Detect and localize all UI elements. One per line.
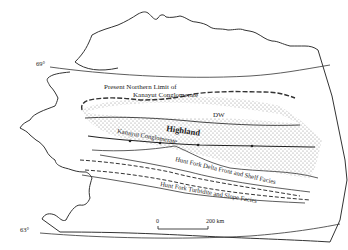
scale-bar: 0 200 km <box>156 218 225 229</box>
northern-limit-label-line2: Kanayut Conglomerate <box>133 91 198 99</box>
northern-limit-label-line1: Present Northern Limit of <box>104 83 177 91</box>
latitude-63-label: 63° <box>20 226 30 233</box>
geologic-map: 69° 63° Present Northern Limit of Kanayu… <box>0 0 348 250</box>
turbidite-dashed-2 <box>85 170 310 200</box>
latitude-69-line <box>50 65 330 77</box>
region-code-label: DW <box>213 111 225 119</box>
scale-end-label: 200 km <box>206 218 225 224</box>
hunt-fork-turbidite-label: Hunt Fork Turbidite and Slope Facies <box>160 180 258 204</box>
latitude-69-label: 69° <box>36 60 46 67</box>
scale-start-label: 0 <box>156 218 159 224</box>
